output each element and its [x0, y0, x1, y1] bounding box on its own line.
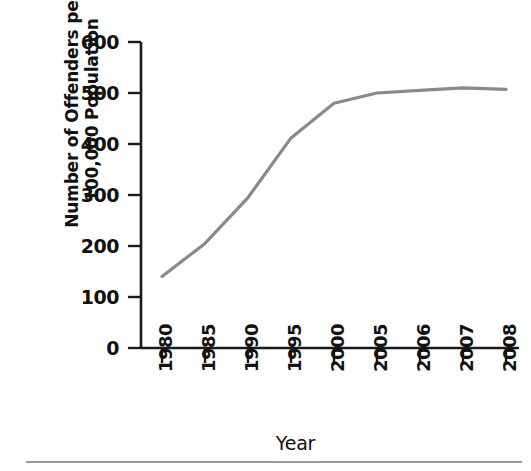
x-tick-label-1980: 1980 — [155, 324, 176, 372]
x-tick-label-2005: 2005 — [370, 324, 391, 372]
plot-area — [0, 0, 531, 471]
page-divider-rule — [26, 461, 522, 463]
x-tick-label-2000: 2000 — [327, 324, 348, 372]
x-tick-label-2008: 2008 — [499, 324, 520, 372]
x-tick-label-2007: 2007 — [456, 324, 477, 372]
x-axis-title: Year — [0, 432, 531, 454]
data-line-offenders — [162, 88, 506, 277]
x-tick-label-2006: 2006 — [413, 324, 434, 372]
x-tick-label-1995: 1995 — [284, 324, 305, 372]
x-axis-title-text: Year — [276, 432, 315, 454]
x-tick-label-1985: 1985 — [198, 324, 219, 372]
x-tick-label-1990: 1990 — [241, 324, 262, 372]
y-axis-ticks — [128, 42, 141, 348]
line-chart-figure: Number of Offenders per 100,000 Populati… — [0, 0, 531, 471]
